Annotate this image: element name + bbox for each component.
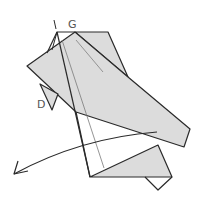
bottom-tip (145, 177, 172, 190)
i-tick (54, 20, 56, 29)
label-g: G (68, 19, 77, 30)
label-d: D (37, 99, 45, 110)
lower-flap (90, 145, 172, 177)
origami-diagram (0, 0, 202, 201)
